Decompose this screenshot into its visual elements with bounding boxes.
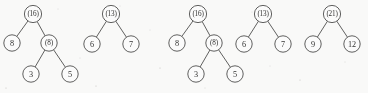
tree-edge [116, 21, 126, 37]
tree-node: 5 [227, 66, 243, 82]
tree-node: 8 [169, 35, 185, 51]
node-label: (16) [192, 10, 204, 18]
scan-speckle [58, 9, 59, 10]
tree-node: (16) [24, 5, 41, 22]
tree-forest-canvas: (16)8(8)35(13)67(16)8(8)35(13)67(21)912 [0, 0, 368, 93]
tree-edge [202, 22, 210, 36]
node-label: 8 [175, 39, 179, 48]
tree-edge [37, 22, 45, 36]
scan-speckle [6, 88, 7, 89]
tree-edge [54, 50, 65, 67]
tree-node: (13) [254, 5, 271, 22]
scan-speckle [120, 6, 121, 7]
tree-node: 3 [23, 66, 39, 82]
tree-edge [268, 21, 278, 37]
tree-node: 5 [62, 66, 78, 82]
node-label: 5 [233, 70, 237, 79]
tree-node: 3 [188, 66, 204, 82]
node-label: 9 [311, 40, 315, 49]
tree-node: (8) [206, 35, 222, 51]
tree-node: 12 [344, 36, 360, 52]
tree-node: 7 [275, 36, 291, 52]
node-label: (13) [105, 10, 117, 18]
node-label: 3 [29, 70, 33, 79]
tree-edge [200, 50, 209, 66]
tree-edge [249, 22, 259, 37]
nodes-layer: (16)8(8)35(13)67(16)8(8)35(13)67(21)912 [4, 5, 360, 82]
tree-node: (21) [323, 5, 340, 22]
node-label: 3 [194, 70, 198, 79]
node-label: (8) [210, 39, 219, 47]
scan-speckle [252, 12, 253, 13]
scan-speckle [270, 66, 271, 67]
scan-speckle [345, 62, 346, 63]
scan-speckle [160, 68, 161, 69]
tree-node: 7 [123, 36, 139, 52]
tree-node: (8) [41, 35, 57, 51]
node-label: 6 [90, 40, 94, 49]
scan-speckle [80, 58, 81, 59]
scan-speckle [150, 30, 151, 31]
node-label: 7 [281, 40, 285, 49]
tree-edge [219, 50, 230, 67]
node-label: 8 [10, 39, 14, 48]
node-label: (8) [45, 39, 54, 47]
node-label: (21) [326, 10, 338, 18]
figure-container: (16)8(8)35(13)67(16)8(8)35(13)67(21)912 [0, 0, 368, 93]
tree-edge [337, 21, 347, 37]
node-label: 6 [242, 40, 246, 49]
tree-edge [17, 21, 28, 36]
tree-node: 6 [84, 36, 100, 52]
scan-speckle [300, 80, 301, 81]
tree-edge [35, 50, 44, 66]
node-label: 7 [129, 40, 133, 49]
tree-node: 6 [236, 36, 252, 52]
node-label: 12 [348, 40, 356, 49]
node-label: (16) [27, 10, 39, 18]
node-label: (13) [257, 10, 269, 18]
tree-node: 9 [305, 36, 321, 52]
tree-node: (16) [189, 5, 206, 22]
tree-edge [97, 22, 107, 37]
tree-edge [318, 22, 328, 37]
tree-node: (13) [102, 5, 119, 22]
scan-speckle [96, 86, 97, 87]
node-label: 5 [68, 70, 72, 79]
tree-node: 8 [4, 35, 20, 51]
scan-speckle [205, 88, 206, 89]
tree-edge [182, 21, 193, 36]
